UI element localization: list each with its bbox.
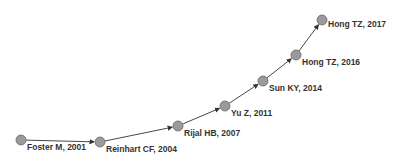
paper-node[interactable] [317, 15, 327, 25]
paper-node[interactable] [220, 101, 230, 111]
paper-node[interactable] [258, 76, 268, 86]
citation-edge [105, 127, 172, 141]
citation-edge [229, 84, 258, 103]
paper-node[interactable] [95, 137, 105, 147]
node-label: Hong TZ, 2017 [328, 19, 386, 29]
node-label: Reinhart CF, 2004 [106, 144, 177, 154]
citation-edge [267, 59, 291, 78]
node-label: Hong TZ, 2016 [302, 57, 360, 67]
citation-edge [183, 108, 220, 124]
citation-edge [299, 25, 318, 51]
node-label: Yu Z, 2011 [231, 108, 272, 118]
citation-diagram: Foster M, 2001Reinhart CF, 2004Rijal HB,… [0, 0, 405, 163]
paper-node[interactable] [173, 121, 183, 131]
paper-node[interactable] [291, 50, 301, 60]
node-label: Foster M, 2001 [27, 142, 86, 152]
node-label: Rijal HB, 2007 [184, 128, 240, 138]
paper-node[interactable] [16, 135, 26, 145]
node-label: Sun KY, 2014 [269, 83, 322, 93]
